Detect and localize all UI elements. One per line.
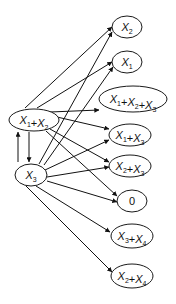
node-t_x1: X1	[112, 51, 142, 73]
transition-diagram: X1+X2X3X2X1X1+X2+X3X1+X3X2+X30X3+X4X2+X4	[0, 0, 176, 304]
node-t_x3x4: X3+X4	[111, 224, 153, 248]
edge-x1x2-to-t_x2	[25, 27, 112, 108]
node-t_zero: 0	[117, 190, 147, 212]
nodes: X1+X2X3X2X1X1+X2+X3X1+X3X2+X30X3+X4X2+X4	[9, 16, 167, 288]
edge-x1x2-to-t_x1x2x3	[50, 110, 99, 112]
node-label: 0	[129, 195, 135, 207]
node-t_x2x3: X2+X3	[109, 155, 151, 177]
node-t_x1x3: X1+X3	[109, 124, 151, 146]
node-t_x1x2x3: X1+X2+X3	[99, 86, 167, 113]
edge-x3-to-t_x2x3	[47, 167, 109, 177]
edge-x3-to-t_x3x4	[36, 186, 110, 232]
edge-x1x2-to-t_x2x3	[50, 129, 109, 162]
edges	[18, 27, 117, 272]
node-x1x2: X1+X2	[9, 109, 59, 131]
edge-x3-to-t_x2x4	[26, 186, 112, 272]
node-x3: X3	[15, 164, 47, 186]
edge-x1x2-to-t_x1x3	[57, 117, 109, 129]
node-t_x2x4: X2+X4	[111, 264, 153, 288]
node-t_x2: X2	[112, 16, 142, 38]
